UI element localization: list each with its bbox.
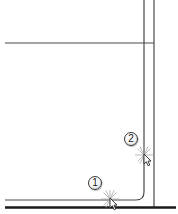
pick-point-2-cursor-icon [134, 145, 156, 167]
filleted-inner-line [5, 0, 144, 200]
step-marker-1: 1 [88, 176, 102, 190]
step-marker-2: 2 [124, 132, 138, 146]
pick-point-1-cursor-icon [100, 189, 122, 211]
